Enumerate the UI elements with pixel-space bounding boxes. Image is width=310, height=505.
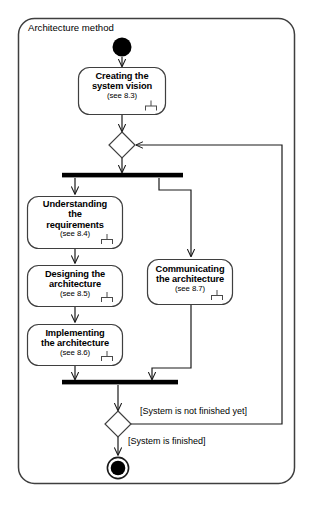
activity-understanding-the-requirements (28, 197, 123, 249)
edge-fork-to-communicating (159, 178, 191, 257)
start-node (113, 38, 132, 57)
join-bar (62, 380, 178, 385)
final-node-core (111, 461, 126, 476)
fork-bar (62, 173, 183, 178)
guard-label-system-not-finished: [System is not finished yet] (140, 406, 247, 416)
decision-diamond-bottom (105, 411, 131, 437)
diagram-vector-layer (0, 0, 310, 505)
activity-designing-the-architecture (28, 266, 123, 307)
frame-title: Architecture method (28, 22, 114, 33)
activity-communicating-the-architecture (148, 260, 233, 305)
merge-diamond-top (109, 132, 135, 158)
activity-creating-the-system-vision (79, 68, 166, 115)
guard-label-system-finished: [System is finished] (128, 436, 206, 446)
edge-communicating-to-join (152, 305, 191, 380)
activity-implementing-the-architecture (28, 325, 123, 366)
activity-diagram-canvas: Architecture method Creating thesystem v… (0, 0, 310, 505)
